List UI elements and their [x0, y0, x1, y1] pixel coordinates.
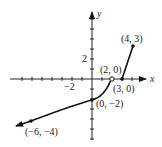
- point-4-3: [131, 44, 135, 48]
- segment-right-piece: [120, 44, 135, 81]
- label-neg6-neg4: (−6, −4): [25, 126, 58, 138]
- label-3-0: (3, 0): [113, 83, 135, 95]
- x-tick-label-neg2: −2: [64, 81, 75, 92]
- point-3-0: [120, 77, 124, 81]
- open-point-2-0: [110, 77, 114, 81]
- graph: x −2 y 2 (4, 3): [0, 0, 162, 147]
- label-4-3: (4, 3): [121, 33, 143, 45]
- label-0-neg2: (0, −2): [96, 98, 123, 110]
- x-axis-label: x: [149, 73, 155, 84]
- point-neg6-neg4: [29, 119, 33, 123]
- label-2-0: (2, 0): [100, 64, 122, 76]
- y-axis-label: y: [96, 8, 102, 19]
- y-axis: y 2: [82, 8, 102, 140]
- y-tick-label-2: 2: [82, 53, 87, 64]
- point-0-neg2: [90, 98, 94, 102]
